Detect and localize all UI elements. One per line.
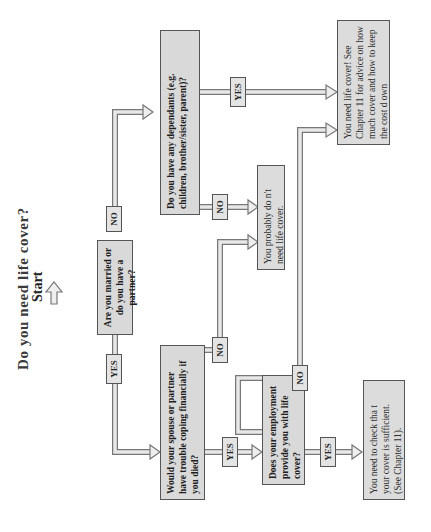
- node-no-need: You probably do n't need life cover.: [257, 165, 285, 270]
- start-arrow: [46, 282, 62, 304]
- edge-dependants-yes: [200, 85, 337, 99]
- node-spouse: Would your spouse or partner have troubl…: [160, 345, 205, 500]
- start-label: Start: [30, 272, 46, 302]
- edge-married-yes: [115, 332, 160, 459]
- edge-label-dependants-no: NO: [212, 194, 228, 220]
- node-check-cover: You need to check tha t your cover is su…: [363, 380, 405, 500]
- flowchart-diagram: .pipe { fill: none; stroke: #777; stroke…: [0, 0, 431, 532]
- edge-spouse-no: [160, 235, 258, 350]
- edge-label-employment-no: NO: [292, 365, 308, 391]
- edge-label-married-no: NO: [106, 206, 122, 232]
- node-dependants: Do you have any dependants (e.g. childre…: [160, 30, 200, 215]
- edge-label-married-yes: YES: [106, 354, 122, 384]
- edge-label-dependants-yes: YES: [230, 77, 246, 107]
- node-need-cover: You need life cover! See Chapter 11 for …: [337, 20, 390, 145]
- node-married: Are you married or do you have a partner…: [97, 240, 133, 335]
- edge-label-spouse-yes: YES: [222, 437, 238, 467]
- edge-label-employment-yes: YES: [320, 437, 336, 467]
- edge-dependants-no: [200, 200, 258, 214]
- edge-label-spouse-no: NO: [212, 337, 228, 363]
- node-employment: Does your employment provide you with li…: [262, 375, 305, 485]
